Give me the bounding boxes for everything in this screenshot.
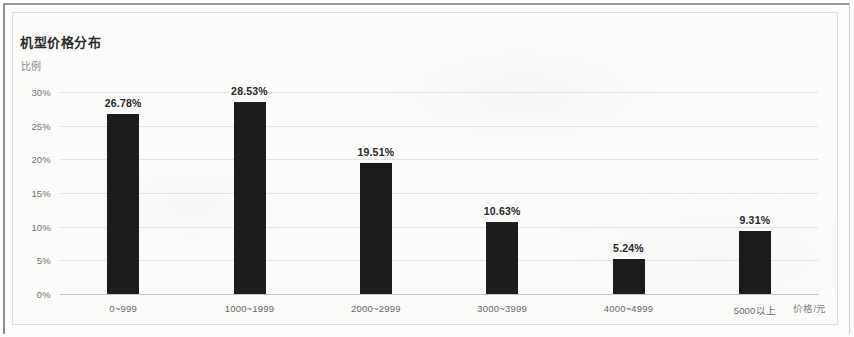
bar-value-label: 10.63% bbox=[484, 205, 521, 217]
gridline: 10% bbox=[60, 227, 818, 228]
x-axis-tick-label: 3000~3999 bbox=[477, 303, 527, 314]
bar-slot: 5.24%4000~4999 bbox=[613, 92, 645, 294]
bar[interactable]: 5.24% bbox=[613, 259, 645, 294]
y-axis-tick-label: 10% bbox=[31, 221, 51, 232]
chart-page: 机型价格分布 比例 价格/元 0%5%10%15%20%25%30% 26.78… bbox=[0, 0, 854, 337]
x-axis-title: 价格/元 bbox=[793, 301, 826, 315]
bar-slot: 9.31%5000以上 bbox=[739, 92, 771, 294]
gridline: 5% bbox=[60, 260, 818, 261]
plot-area: 0%5%10%15%20%25%30% 26.78%0~99928.53%100… bbox=[60, 92, 818, 294]
bar[interactable]: 10.63% bbox=[486, 222, 518, 294]
bar-value-label: 19.51% bbox=[357, 146, 394, 158]
x-axis-tick-label: 5000以上 bbox=[734, 303, 776, 317]
bar[interactable]: 26.78% bbox=[107, 114, 139, 294]
bar-slot: 26.78%0~999 bbox=[107, 92, 139, 294]
bar-value-label: 28.53% bbox=[231, 85, 268, 97]
x-axis-tick-label: 2000~2999 bbox=[351, 303, 401, 314]
bar-slot: 28.53%1000~1999 bbox=[234, 92, 266, 294]
x-axis-baseline: 0% bbox=[60, 294, 818, 295]
bar-slot: 10.63%3000~3999 bbox=[486, 92, 518, 294]
bar-value-label: 26.78% bbox=[105, 97, 142, 109]
bar-slot: 19.51%2000~2999 bbox=[360, 92, 392, 294]
bar[interactable]: 9.31% bbox=[739, 231, 771, 294]
gridline: 30% bbox=[60, 92, 818, 93]
y-axis-title: 比例 bbox=[21, 58, 42, 73]
page-outer-border-right bbox=[849, 3, 850, 334]
chart-title: 机型价格分布 bbox=[20, 32, 101, 51]
x-axis-tick-label: 1000~1999 bbox=[225, 303, 275, 314]
bar[interactable]: 19.51% bbox=[360, 163, 392, 294]
x-axis-tick-label: 4000~4999 bbox=[604, 303, 654, 314]
gridline: 25% bbox=[60, 126, 818, 127]
bar-value-label: 9.31% bbox=[739, 214, 770, 226]
bar[interactable]: 28.53% bbox=[234, 102, 266, 294]
gridline: 15% bbox=[60, 193, 818, 194]
y-axis-tick-label: 20% bbox=[31, 154, 51, 165]
gridline: 20% bbox=[60, 159, 818, 160]
y-axis-tick-label: 0% bbox=[37, 289, 51, 300]
y-axis-tick-label: 25% bbox=[31, 120, 51, 131]
y-axis-tick-label: 5% bbox=[37, 255, 51, 266]
bar-value-label: 5.24% bbox=[613, 242, 644, 254]
y-axis-tick-label: 30% bbox=[31, 87, 51, 98]
y-axis-tick-label: 15% bbox=[31, 188, 51, 199]
x-axis-tick-label: 0~999 bbox=[109, 303, 137, 314]
